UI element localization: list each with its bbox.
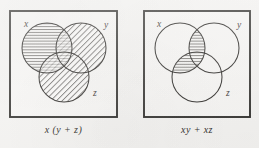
panel-right-graphic: x y z (0, 0, 259, 140)
set-label-z-right: z (225, 88, 230, 98)
panel-right: x y z xy + xz (0, 0, 259, 140)
set-label-y-right: y (236, 20, 242, 30)
set-label-x-right: x (156, 19, 162, 29)
caption-right: xy + xz (144, 124, 250, 135)
